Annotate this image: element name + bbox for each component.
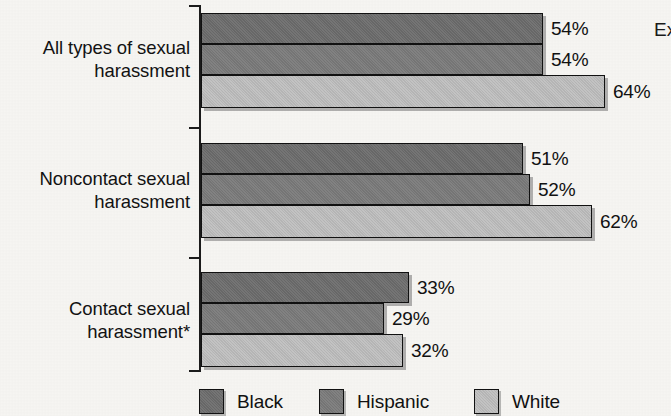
bar-contact-black[interactable]: [201, 272, 409, 303]
axis-tick-2: [189, 257, 200, 259]
legend-swatch-black: [199, 389, 224, 414]
category-label-all-types: All types of sexual harassment: [0, 36, 190, 82]
bar-contact-hispanic[interactable]: [201, 303, 384, 334]
bar-all-types-black[interactable]: [201, 13, 543, 44]
bar-all-types-hispanic[interactable]: [201, 44, 543, 75]
bar-value-all-types-white: 64%: [613, 81, 650, 103]
legend-item-white[interactable]: White: [474, 387, 560, 416]
bar-contact-white[interactable]: [201, 334, 403, 367]
bar-noncontact-white[interactable]: [201, 205, 592, 238]
bar-value-noncontact-hispanic: 52%: [538, 179, 575, 201]
bar-value-noncontact-white: 62%: [600, 211, 637, 233]
axis-tick-1: [189, 127, 200, 129]
bar-value-noncontact-black: 51%: [531, 148, 568, 170]
legend-item-hispanic[interactable]: Hispanic: [319, 387, 474, 416]
legend-label-white: White: [512, 391, 560, 413]
axis-tick-bottom: [189, 370, 200, 372]
bar-noncontact-hispanic[interactable]: [201, 174, 530, 205]
bar-value-all-types-hispanic: 54%: [551, 49, 588, 71]
bar-value-contact-white: 32%: [411, 340, 448, 362]
legend: Black Hispanic White: [199, 387, 560, 416]
legend-label-black: Black: [237, 391, 283, 413]
bar-value-all-types-black: 54%: [551, 18, 588, 40]
bar-noncontact-black[interactable]: [201, 143, 523, 174]
margin-note-clipped: Ex: [654, 19, 671, 41]
legend-item-black[interactable]: Black: [199, 387, 319, 416]
axis-tick-top: [189, 5, 200, 7]
category-label-noncontact: Noncontact sexual harassment: [0, 167, 190, 213]
legend-swatch-white: [474, 389, 499, 414]
bar-value-contact-black: 33%: [417, 277, 454, 299]
legend-swatch-hispanic: [319, 389, 344, 414]
bar-chart: All types of sexual harassment Noncontac…: [0, 0, 671, 416]
bar-value-contact-hispanic: 29%: [392, 308, 429, 330]
bar-all-types-white[interactable]: [201, 75, 605, 108]
legend-label-hispanic: Hispanic: [357, 391, 429, 413]
category-label-contact: Contact sexual harassment*: [0, 297, 190, 343]
